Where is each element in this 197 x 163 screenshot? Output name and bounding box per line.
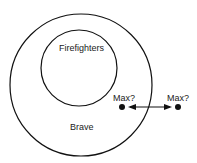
inner-circle-firefighters xyxy=(41,30,117,106)
label-brave: Brave xyxy=(70,122,94,132)
venn-diagram xyxy=(0,0,197,163)
label-max-inside: Max? xyxy=(113,93,135,103)
label-firefighters: Firefighters xyxy=(59,43,104,53)
outer-circle-brave xyxy=(10,14,152,156)
point-max-outside xyxy=(175,104,181,110)
double-arrow xyxy=(128,104,172,110)
point-max-inside xyxy=(119,104,125,110)
label-max-outside: Max? xyxy=(167,93,189,103)
